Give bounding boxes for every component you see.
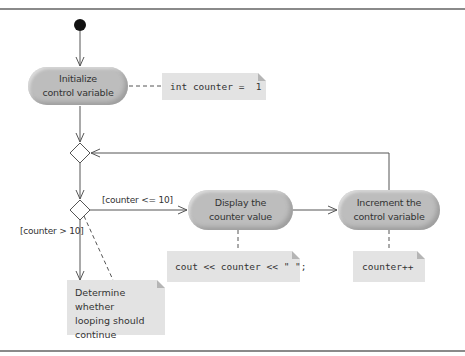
- action-label-line2: control variable: [42, 86, 113, 100]
- action-label-line1: Display the: [209, 196, 272, 210]
- note-decision-line1: Determine whether: [75, 286, 157, 314]
- note-decision-line3: continue: [75, 328, 157, 342]
- decision-node: [70, 200, 90, 220]
- guard-exit: [counter > 10]: [20, 226, 84, 236]
- note-increment-code-text: counter++: [362, 261, 413, 272]
- note-init-code: int counter = 1: [162, 73, 266, 100]
- action-label-line1: Increment the: [353, 196, 424, 210]
- note-display-code-text: cout << counter << " ";: [175, 261, 307, 272]
- action-increment-control-variable: Increment the control variable: [338, 190, 440, 230]
- note-decision-description: Determine whether looping should continu…: [67, 280, 165, 335]
- initial-node: [74, 19, 86, 31]
- note-decision-line2: looping should: [75, 314, 157, 328]
- action-initialize-control-variable: Initialize control variable: [28, 67, 128, 105]
- guard-continue: [counter <= 10]: [102, 195, 173, 205]
- action-label-line1: Initialize: [42, 72, 113, 86]
- merge-node: [70, 143, 90, 163]
- action-label-line2: control variable: [353, 210, 424, 224]
- action-display-counter-value: Display the counter value: [188, 190, 293, 230]
- note-init-code-text: int counter = 1: [170, 81, 262, 92]
- note-increment-code: counter++: [353, 251, 425, 282]
- note-display-code: cout << counter << " ";: [167, 251, 300, 282]
- action-label-line2: counter value: [209, 210, 272, 224]
